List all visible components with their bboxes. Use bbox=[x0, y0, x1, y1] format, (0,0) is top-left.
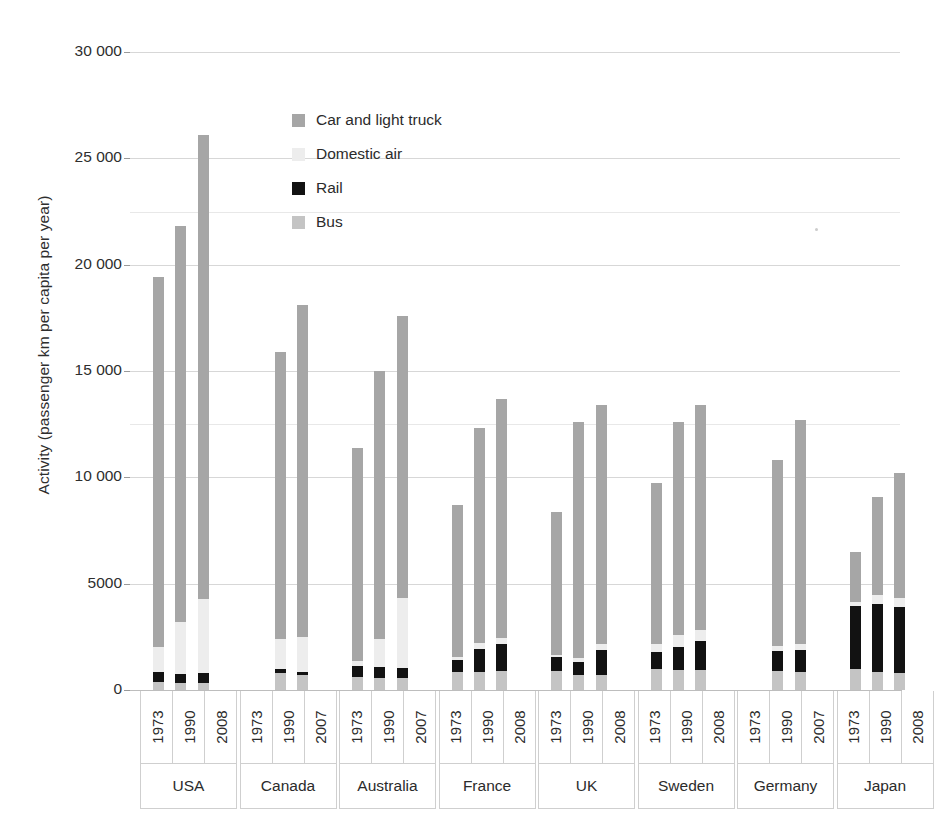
bar-australia-1990 bbox=[374, 371, 385, 690]
bar-segment-car bbox=[551, 512, 562, 654]
bar-segment-rail bbox=[872, 604, 883, 672]
bar-segment-air bbox=[894, 598, 905, 608]
bar-france-1990 bbox=[474, 428, 485, 690]
x-group-canada: 197319902007Canada bbox=[240, 691, 339, 809]
legend-item-domestic-air: Domestic air bbox=[292, 137, 552, 171]
bar-segment-rail bbox=[894, 607, 905, 673]
x-country-label: Australia bbox=[357, 777, 417, 795]
legend-item-rail: Rail bbox=[292, 171, 552, 205]
legend-item-bus: Bus bbox=[292, 205, 552, 239]
x-group-usa: 197319902008USA bbox=[140, 691, 239, 809]
x-year-label: 2008 bbox=[909, 710, 926, 743]
y-tick-mark bbox=[124, 371, 130, 372]
bar-germany-1990 bbox=[772, 460, 783, 690]
bar-segment-bus bbox=[673, 670, 684, 690]
x-axis-category-labels: 197319902008USA197319902007Canada1973199… bbox=[130, 691, 902, 811]
x-year-cell: 1973 bbox=[737, 691, 770, 764]
bar-segment-bus bbox=[772, 671, 783, 690]
bar-segment-rail bbox=[175, 674, 186, 683]
x-group-sweden: 197319902008Sweden bbox=[638, 691, 737, 809]
y-tick-mark bbox=[124, 584, 130, 585]
bar-segment-rail bbox=[474, 649, 485, 672]
x-year-label: 2008 bbox=[710, 710, 727, 743]
x-year-label: 1990 bbox=[180, 710, 197, 743]
bar-segment-bus bbox=[596, 675, 607, 690]
bar-segment-bus bbox=[872, 672, 883, 690]
x-year-label: 1973 bbox=[646, 710, 663, 743]
bar-japan-1990 bbox=[872, 496, 883, 690]
bar-segment-air bbox=[297, 637, 308, 672]
y-tick-mark bbox=[124, 52, 130, 53]
gridline-5000 bbox=[130, 584, 900, 585]
y-tick-mark bbox=[124, 265, 130, 266]
x-year-label: 1990 bbox=[479, 710, 496, 743]
bar-segment-car bbox=[198, 135, 209, 599]
bar-segment-bus bbox=[695, 670, 706, 690]
bar-germany-2007 bbox=[795, 420, 806, 690]
x-country-cell: UK bbox=[538, 763, 635, 809]
x-year-cell: 1973 bbox=[638, 691, 671, 764]
gridline-20000 bbox=[130, 265, 900, 266]
x-group-germany: 197319902007Germany bbox=[737, 691, 836, 809]
y-tick-label: 10 000 bbox=[14, 468, 122, 484]
bar-segment-car bbox=[297, 305, 308, 637]
x-year-cell: 1973 bbox=[538, 691, 571, 764]
x-year-cell: 1973 bbox=[140, 691, 173, 764]
legend-swatch-icon bbox=[292, 216, 305, 229]
y-axis-tick-labels: 30 00025 00020 00015 00010 00050000 bbox=[0, 52, 122, 690]
bar-segment-car bbox=[772, 460, 783, 646]
bar-segment-car bbox=[850, 552, 861, 602]
x-year-label: 2007 bbox=[312, 710, 329, 743]
x-year-label: 1973 bbox=[347, 710, 364, 743]
bar-segment-air bbox=[175, 622, 186, 674]
y-tick-mark bbox=[124, 477, 130, 478]
gridline-15000 bbox=[130, 371, 900, 372]
bar-segment-air bbox=[275, 639, 286, 669]
bar-segment-bus bbox=[452, 672, 463, 690]
x-country-cell: Australia bbox=[339, 763, 436, 809]
bar-canada-2007 bbox=[297, 305, 308, 690]
x-year-label: 2007 bbox=[411, 710, 428, 743]
x-year-cell: 2008 bbox=[901, 691, 934, 764]
bar-segment-car bbox=[397, 316, 408, 598]
bar-sweden-1973 bbox=[651, 483, 662, 690]
chart-legend: Car and light truckDomestic airRailBus bbox=[292, 103, 552, 239]
x-year-label: 1990 bbox=[678, 710, 695, 743]
x-year-cell: 1990 bbox=[869, 691, 902, 764]
x-country-cell: France bbox=[439, 763, 536, 809]
x-country-label: Japan bbox=[864, 777, 906, 795]
y-tick-label: 30 000 bbox=[14, 43, 122, 59]
x-country-cell: Canada bbox=[240, 763, 337, 809]
bar-segment-rail bbox=[850, 606, 861, 669]
bar-segment-bus bbox=[153, 682, 164, 691]
scan-artifact-speck bbox=[815, 228, 818, 231]
legend-label: Car and light truck bbox=[316, 111, 442, 129]
x-year-cell: 1990 bbox=[471, 691, 504, 764]
legend-swatch-icon bbox=[292, 148, 305, 161]
legend-swatch-icon bbox=[292, 114, 305, 127]
bar-uk-2008 bbox=[596, 405, 607, 690]
legend-label: Domestic air bbox=[316, 145, 402, 163]
bar-segment-car bbox=[474, 428, 485, 643]
x-year-cell: 1990 bbox=[670, 691, 703, 764]
bar-france-1973 bbox=[452, 505, 463, 690]
y-tick-mark bbox=[124, 158, 130, 159]
bar-segment-bus bbox=[850, 669, 861, 690]
bar-segment-bus bbox=[352, 677, 363, 690]
bar-segment-air bbox=[651, 644, 662, 651]
bar-segment-car bbox=[795, 420, 806, 644]
bar-france-2008 bbox=[496, 399, 507, 690]
bar-segment-air bbox=[374, 639, 385, 667]
bar-segment-car bbox=[374, 371, 385, 639]
x-country-cell: Germany bbox=[737, 763, 834, 809]
bar-segment-car bbox=[573, 422, 584, 658]
bar-segment-rail bbox=[772, 651, 783, 671]
x-year-label: 2007 bbox=[809, 710, 826, 743]
y-tick-label: 0 bbox=[14, 681, 122, 697]
x-year-cell: 1990 bbox=[570, 691, 603, 764]
x-year-label: 1990 bbox=[877, 710, 894, 743]
bar-segment-rail bbox=[596, 650, 607, 676]
bar-segment-rail bbox=[673, 647, 684, 669]
bar-segment-rail bbox=[198, 673, 209, 683]
